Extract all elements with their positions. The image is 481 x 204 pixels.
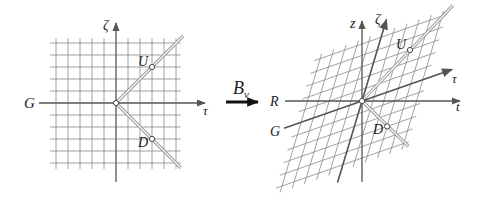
event-marker-d bbox=[384, 124, 389, 129]
right-t-label: t bbox=[456, 99, 460, 114]
boost-diagram: UD G τ ζ Bv UD R t z ζ τ G bbox=[0, 0, 481, 204]
right-r-label: R bbox=[269, 94, 279, 109]
right-zeta-label: ζ bbox=[375, 12, 382, 27]
boost-arrow: Bv bbox=[226, 78, 258, 102]
right-tau-label: τ bbox=[452, 71, 458, 86]
event-marker-u bbox=[149, 64, 154, 69]
light-line-core bbox=[116, 36, 183, 103]
event-label-u: U bbox=[396, 37, 407, 52]
right-panel: UD R t z ζ τ G bbox=[269, 5, 460, 192]
event-label-u: U bbox=[138, 54, 149, 69]
right-z-label: z bbox=[349, 16, 356, 31]
event-marker-d bbox=[149, 136, 154, 141]
left-origin-marker bbox=[113, 100, 118, 105]
boost-symbol: B bbox=[233, 78, 244, 98]
left-g-label: G bbox=[24, 95, 35, 111]
boost-label: Bv bbox=[233, 78, 249, 100]
light-line-core bbox=[116, 103, 181, 168]
left-light-lines bbox=[116, 36, 183, 168]
right-origin-marker bbox=[359, 98, 364, 103]
right-g-label: G bbox=[270, 124, 280, 139]
light-line-core bbox=[362, 101, 408, 146]
event-label-d: D bbox=[137, 135, 148, 150]
left-panel: UD G τ ζ bbox=[24, 18, 209, 182]
left-zeta-label: ζ bbox=[103, 18, 110, 33]
boost-subscript: v bbox=[244, 88, 249, 100]
event-label-d: D bbox=[372, 122, 383, 137]
event-marker-u bbox=[407, 47, 412, 52]
left-tau-label: τ bbox=[203, 103, 209, 118]
